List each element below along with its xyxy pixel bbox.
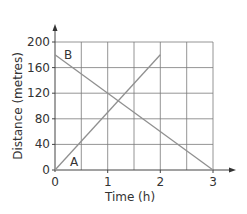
- distance-time-chart: 200 160 120 80 40 0 0 1 2 3 Time (h) Dis…: [0, 0, 247, 214]
- y-tick-label: 200: [27, 35, 50, 49]
- grid: [55, 42, 213, 170]
- y-axis-label: Distance (metres): [11, 52, 25, 160]
- y-tick-label: 120: [27, 86, 50, 100]
- y-tick-label: 0: [42, 163, 50, 177]
- x-tick-label: 0: [51, 175, 59, 189]
- y-tick-label: 80: [35, 112, 50, 126]
- x-tick-label: 1: [104, 175, 112, 189]
- axes: [52, 28, 232, 173]
- x-axis-label: Time (h): [104, 190, 155, 204]
- series-label-b: B: [64, 48, 72, 62]
- y-tick-label: 40: [35, 137, 50, 151]
- x-tick-label: 3: [209, 175, 217, 189]
- series-label-a: A: [70, 155, 79, 169]
- x-tick-label: 2: [156, 175, 164, 189]
- y-tick-label: 160: [27, 61, 50, 75]
- x-axis-arrow-icon: [229, 168, 236, 173]
- y-axis-arrow-icon: [53, 24, 58, 31]
